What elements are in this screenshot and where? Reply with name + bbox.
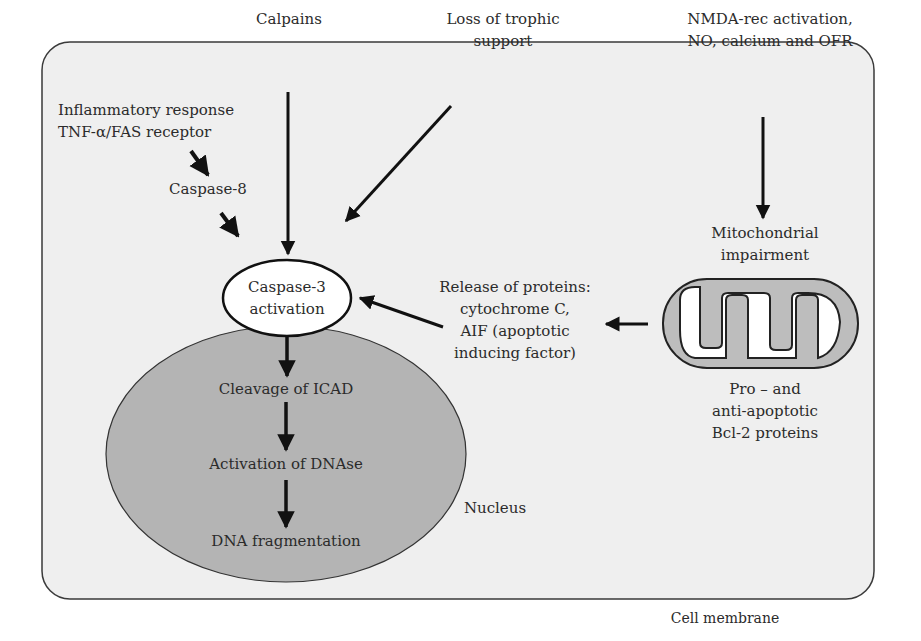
label-inflammatory-line2: TNF-α/FAS receptor [58,121,248,143]
label-release-line2: cytochrome C, [430,298,600,320]
label-inflammatory-line1: Inflammatory response [58,99,248,121]
label-mito-line2: impairment [700,244,830,266]
label-release-line4: inducing factor) [430,342,600,364]
label-bcl2-line2: anti-apoptotic [695,400,835,422]
label-fragmentation: DNA fragmentation [186,530,386,552]
label-inflammatory: Inflammatory response TNF-α/FAS receptor [58,99,248,143]
label-bcl2-line3: Bcl-2 proteins [695,422,835,444]
label-nmda-line2: NO, calcium and OFR [670,30,870,52]
label-mito-impairment: Mitochondrial impairment [700,222,830,266]
label-loss-trophic-line1: Loss of trophic [438,8,568,30]
label-caspase3-line2: activation [237,298,337,320]
label-nmda-line1: NMDA-rec activation, [670,8,870,30]
label-loss-trophic-line2: support [438,30,568,52]
label-mito-line1: Mitochondrial [700,222,830,244]
label-calpains: Calpains [248,8,330,30]
label-bcl2-line1: Pro – and [695,378,835,400]
label-loss-trophic: Loss of trophic support [438,8,568,52]
label-caspase8: Caspase-8 [158,178,258,200]
label-release-line3: AIF (apoptotic [430,320,600,342]
label-release-line1: Release of proteins: [430,276,600,298]
label-release-proteins: Release of proteins: cytochrome C, AIF (… [430,276,600,364]
label-nmda: NMDA-rec activation, NO, calcium and OFR [670,8,870,52]
label-nucleus: Nucleus [455,497,535,519]
label-dnase: Activation of DNAse [186,453,386,475]
label-icad: Cleavage of ICAD [196,378,376,400]
label-bcl2: Pro – and anti-apoptotic Bcl-2 proteins [695,378,835,444]
mitochondrion-icon [663,279,858,368]
label-caspase3-line1: Caspase-3 [237,276,337,298]
label-cell-membrane: Cell membrane [655,607,795,629]
label-caspase3: Caspase-3 activation [237,276,337,320]
